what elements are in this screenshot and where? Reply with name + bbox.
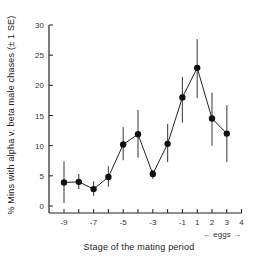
x-tick-label: -5 [120,218,128,227]
data-line [64,68,227,189]
data-point [209,115,215,121]
error-bars [64,39,227,203]
data-point [76,179,82,185]
x-tick-label: 2 [210,218,215,227]
x-tick-label: -9 [60,218,68,227]
data-point [164,141,170,147]
data-point [224,130,230,136]
data-point [105,174,111,180]
data-point [179,94,185,100]
tick-labels: 051015202530-9-7-5-3-11234 [35,21,244,227]
y-tick-label: 10 [35,142,44,151]
x-tick-label: 3 [225,218,230,227]
x-axis-title: Stage of the mating period [84,242,195,252]
line-chart: 051015202530-9-7-5-3-11234 % Mins with a… [0,0,257,262]
x-tick-label: 4 [239,218,244,227]
data-point [90,186,96,192]
data-point [135,131,141,137]
x-tick-label: -7 [90,218,98,227]
eggs-annotation: ← eggs → [203,230,241,239]
data-points [61,65,230,193]
data-point [120,141,126,147]
y-tick-label: 30 [35,21,44,30]
x-tick-label: -3 [149,218,157,227]
x-tick-label: -1 [179,218,187,227]
y-tick-label: 25 [35,51,44,60]
y-tick-label: 20 [35,81,44,90]
data-point [61,179,67,185]
y-tick-label: 15 [35,112,44,121]
y-tick-label: 5 [40,172,45,181]
data-point [194,65,200,71]
data-point [150,171,156,177]
x-tick-label: 1 [195,218,200,227]
y-axis-title: % Mins with alpha v. beta male chases (±… [6,15,16,214]
y-tick-label: 0 [40,202,45,211]
